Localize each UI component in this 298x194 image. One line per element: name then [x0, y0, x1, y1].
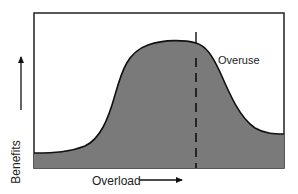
y-axis-label: Benefits: [6, 70, 26, 175]
y-axis-label-text: Benefits: [9, 141, 23, 184]
overuse-label: Overuse: [218, 54, 260, 66]
x-axis-label: Overload: [92, 174, 141, 188]
benefits-overload-diagram: [0, 0, 298, 194]
